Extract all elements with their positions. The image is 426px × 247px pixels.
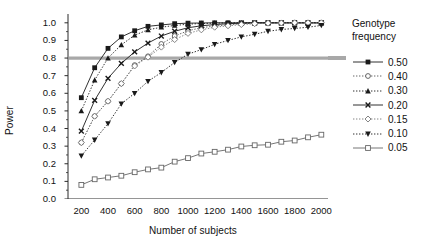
- legend-sample-0.10: [352, 127, 384, 141]
- legend-sample-0.40: [352, 69, 384, 83]
- legend-sample-0.15: [352, 112, 384, 126]
- legend-label-0.10: 0.10: [388, 128, 407, 139]
- legend: Genotype frequency 0.500.400.300.200.150…: [352, 18, 424, 155]
- legend-item-0.20[interactable]: 0.20: [352, 98, 424, 112]
- legend-label-0.20: 0.20: [388, 100, 407, 111]
- legend-sample-0.05: [352, 141, 384, 155]
- legend-label-0.50: 0.50: [388, 57, 407, 68]
- legend-item-0.15[interactable]: 0.15: [352, 112, 424, 126]
- legend-sample-0.20: [352, 98, 384, 112]
- legend-label-0.15: 0.15: [388, 114, 407, 125]
- x-axis-title: Number of subjects: [58, 225, 328, 236]
- x-tick-2000: 2000: [304, 205, 338, 216]
- legend-title-line1: Genotype: [352, 18, 424, 31]
- legend-title: Genotype frequency: [352, 18, 424, 43]
- legend-title-line2: frequency: [352, 31, 424, 44]
- legend-sample-0.30: [352, 84, 384, 98]
- legend-label-0.40: 0.40: [388, 71, 407, 82]
- legend-item-0.40[interactable]: 0.40: [352, 69, 424, 83]
- legend-item-0.05[interactable]: 0.05: [352, 141, 424, 155]
- legend-item-0.30[interactable]: 0.30: [352, 84, 424, 98]
- legend-item-0.50[interactable]: 0.50: [352, 55, 424, 69]
- legend-item-0.10[interactable]: 0.10: [352, 126, 424, 140]
- legend-sample-0.50: [352, 55, 384, 69]
- legend-label-0.30: 0.30: [388, 85, 407, 96]
- power-curve-figure: Power 0.00.10.20.30.40.50.60.70.80.91.0 …: [0, 0, 426, 247]
- power-threshold-line-overflow: [328, 56, 346, 59]
- legend-entries: 0.500.400.300.200.150.100.05: [352, 55, 424, 155]
- legend-label-0.05: 0.05: [388, 142, 407, 153]
